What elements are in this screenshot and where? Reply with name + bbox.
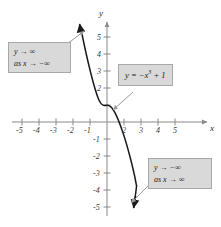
y-tick-label: -5 [93,204,100,212]
x-tick-label: -4 [33,127,40,135]
curve-lower-arrowhead [134,196,136,208]
y-tick-label: 4 [97,51,101,59]
y-axis-label: y [99,9,103,18]
x-tick-label: -1 [84,127,91,135]
x-tick-label: -5 [16,127,23,135]
y-tick-label: -4 [93,187,100,195]
y-tick-label: -1 [93,136,100,144]
x-axis-label: x [210,124,214,133]
callout-right-line1: y → −∞ [154,163,181,172]
callout-right-limit: y → −∞ as x → ∞ [148,158,212,189]
equation-callout-leader [113,92,133,110]
x-tick-label: 3 [139,127,143,135]
cubic-curve [80,26,136,208]
callout-equation: y = −x3 + 1 [118,64,173,86]
x-tick-label: 5 [173,127,177,135]
equation-prefix: y = −x [125,70,148,80]
graph-figure: y x -5 -4 -3 -2 -1 2 3 4 5 5 4 3 2 -1 -2… [0,0,221,227]
x-tick-label: 2 [122,127,126,135]
y-tick-label: 2 [97,85,101,93]
x-tick-label: -3 [50,127,57,135]
y-tick-label: 5 [97,34,101,42]
callout-left-line2: as x → −∞ [14,58,65,70]
plot-canvas [0,0,221,227]
callout-right-line2: as x → ∞ [154,174,206,186]
equation-suffix: + 1 [151,70,165,80]
callout-left-line1: y → ∞ [14,47,35,56]
y-tick-label: -2 [93,153,100,161]
x-tick-label: -2 [67,127,74,135]
x-tick-label: 4 [156,127,160,135]
y-tick-label: 3 [97,68,101,76]
callout-left-limit: y → ∞ as x → −∞ [8,42,71,73]
y-tick-label: -3 [93,170,100,178]
